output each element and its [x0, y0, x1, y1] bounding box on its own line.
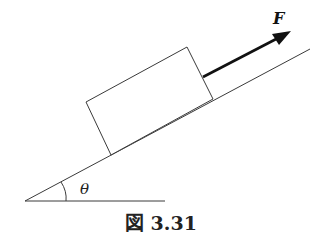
force-arrow-head: [272, 31, 291, 45]
incline-diagram: θ F 図 3.31: [0, 0, 333, 239]
block: [86, 47, 213, 155]
force-label: F: [272, 9, 286, 28]
angle-arc: [61, 182, 66, 201]
figure-caption: 図 3.31: [125, 212, 197, 234]
angle-label: θ: [80, 180, 89, 198]
